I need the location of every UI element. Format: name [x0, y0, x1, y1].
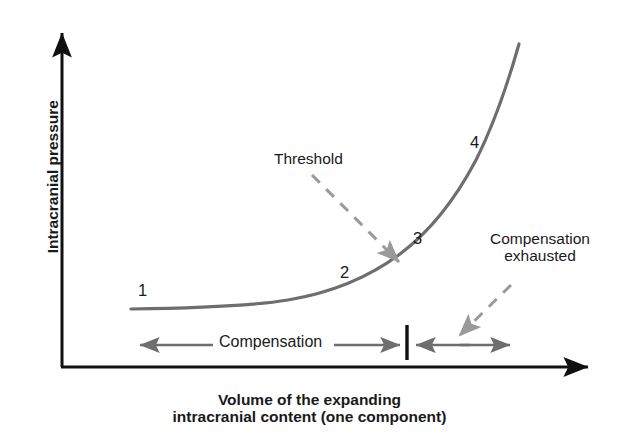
x-axis-title-line-2: intracranial content (one component) [0, 408, 619, 425]
threshold-arrow [312, 175, 399, 262]
y-axis-title: Intracranial pressure [44, 67, 61, 287]
x-axis-title: Volume of the expanding intracranial con… [0, 391, 619, 426]
curve-point-label-3: 3 [413, 229, 422, 247]
compensation-exhausted-line-1: Compensation [490, 230, 590, 247]
curve-point-label-1: 1 [138, 281, 147, 299]
threshold-annotation-label: Threshold [274, 150, 343, 167]
compensation-span-label: Compensation [215, 333, 326, 351]
curve-point-label-4: 4 [470, 133, 479, 151]
compensation-exhausted-arrow [459, 285, 511, 336]
pressure-volume-curve [131, 44, 519, 309]
chart-canvas [0, 0, 619, 443]
x-axis-title-line-1: Volume of the expanding [218, 391, 401, 408]
curve-point-label-2: 2 [340, 263, 349, 281]
compensation-exhausted-annotation-label: Compensation exhausted [470, 230, 610, 265]
compensation-exhausted-line-2: exhausted [470, 247, 610, 264]
pressure-volume-figure: Intracranial pressure Volume of the expa… [0, 0, 619, 443]
